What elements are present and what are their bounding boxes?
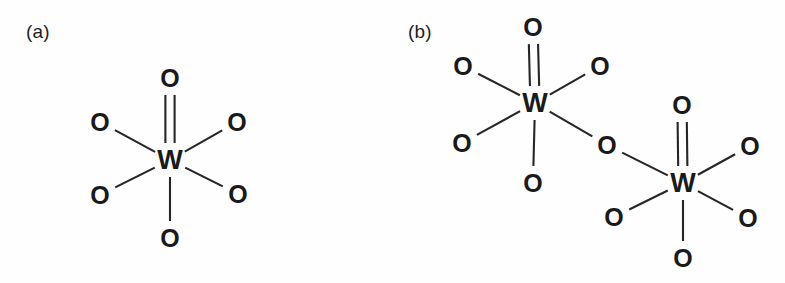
bond-wl-bottom <box>533 120 534 166</box>
atom-oxygen-lower-left-1: O <box>452 129 471 157</box>
bond-w-oxo-top <box>165 95 174 143</box>
atom-oxo-top: O <box>160 64 179 92</box>
bond-w-upper-right <box>185 130 222 151</box>
bond-wl-lower-left <box>477 111 520 135</box>
bond-w-upper-left-stroke <box>115 130 155 152</box>
atom-oxygen-lower-right-2: O <box>738 204 757 232</box>
panel-b: (b) WOOOOOOWOOOOO <box>392 0 785 283</box>
bond-wr-oxo-top <box>678 122 688 166</box>
atom-metal-center-left: W <box>522 88 548 118</box>
atom-oxo-top-right: O <box>672 91 691 119</box>
atom-metal-center-right: W <box>670 168 696 198</box>
atom-oxygen-bottom: O <box>160 224 179 252</box>
structure-diagram-a: WOOOOOO <box>0 0 392 283</box>
figure-root: (a) WOOOOOO (b) WOOOOOOWOOOOO <box>0 0 785 283</box>
bond-wl-oxo-top-stroke <box>529 44 530 86</box>
bond-wl-upper-right-stroke <box>550 74 585 94</box>
atom-oxygen-upper-left-1: O <box>453 52 472 80</box>
bond-bridge-wr-stroke <box>622 153 668 176</box>
atom-oxygen-bottom-2: O <box>673 244 692 272</box>
bond-wl-bridge <box>550 112 593 137</box>
bond-wl-oxo-top-stroke <box>538 44 539 86</box>
atom-oxygen-lower-right: O <box>228 180 247 208</box>
atom-bridging-oxygen: O <box>597 131 616 159</box>
bond-wl-bottom-stroke <box>533 120 534 166</box>
bond-w-upper-left <box>115 130 155 152</box>
bond-w-lower-left <box>115 168 155 188</box>
bond-w-lower-right <box>185 168 223 187</box>
structure-diagram-b: WOOOOOOWOOOOO <box>392 0 785 283</box>
bond-wr-lower-right <box>698 191 733 210</box>
bond-wr-upper-right <box>698 154 735 175</box>
atom-oxo-top-left: O <box>523 13 542 41</box>
bond-wr-upper-right-stroke <box>698 154 735 175</box>
bond-wr-oxo-top-stroke <box>678 122 679 166</box>
bond-w-lower-right-stroke <box>185 168 223 187</box>
bond-wl-upper-left-stroke <box>478 74 520 95</box>
bond-wl-lower-left-stroke <box>477 111 520 135</box>
bond-wl-upper-left <box>478 74 520 95</box>
bond-wr-lower-right-stroke <box>698 191 733 210</box>
bond-wr-lower-left-stroke <box>629 191 668 210</box>
atom-oxygen-upper-left: O <box>90 108 109 136</box>
bond-bridge-wr <box>622 153 668 176</box>
atom-metal-center: W <box>157 145 183 175</box>
atom-oxygen-upper-right: O <box>227 108 246 136</box>
bond-wr-lower-left <box>629 191 668 210</box>
atom-oxygen-upper-right-2: O <box>740 132 759 160</box>
panel-a: (a) WOOOOOO <box>0 0 392 283</box>
bond-wr-oxo-top-stroke <box>687 122 688 166</box>
bond-wl-bridge-stroke <box>550 112 593 137</box>
bond-wl-upper-right <box>550 74 585 94</box>
bond-w-upper-right-stroke <box>185 130 222 151</box>
atom-oxygen-lower-left-2: O <box>604 203 623 231</box>
atom-oxygen-upper-right-1: O <box>590 52 609 80</box>
bond-w-lower-left-stroke <box>115 168 155 188</box>
atom-oxygen-lower-left: O <box>90 181 109 209</box>
bond-wl-oxo-top <box>529 44 539 86</box>
atom-oxygen-bottom-1: O <box>523 169 542 197</box>
